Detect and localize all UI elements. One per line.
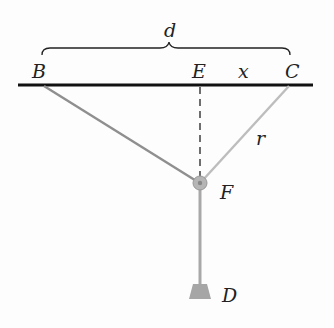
label-x: x <box>238 60 249 82</box>
label-B: B <box>31 60 46 82</box>
diagram-canvas: d B E x C r F D <box>0 0 334 328</box>
pulley-F-hub <box>198 181 202 185</box>
pulley-diagram: d B E x C r F D <box>0 0 334 328</box>
label-E: E <box>191 60 206 82</box>
cable-BF <box>44 86 198 182</box>
label-d: d <box>164 19 176 41</box>
cable-CF <box>202 86 289 181</box>
label-r: r <box>256 127 267 149</box>
label-D: D <box>221 284 237 306</box>
label-F: F <box>219 181 234 203</box>
label-C: C <box>285 60 300 82</box>
dimension-brace <box>42 42 290 55</box>
weight-D <box>189 284 211 299</box>
